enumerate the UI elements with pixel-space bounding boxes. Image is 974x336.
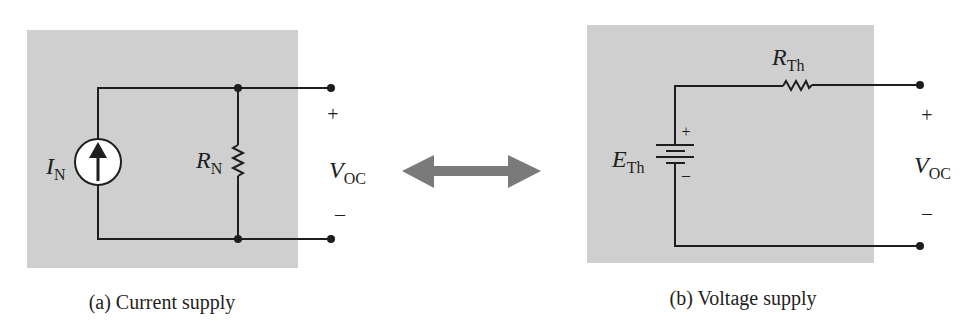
left-minus-sign: – <box>334 203 346 225</box>
battery-plus-sign: + <box>681 123 690 140</box>
double-arrow-icon <box>402 155 541 188</box>
left-voc-label: VOC <box>329 157 366 187</box>
right-caption: (b) Voltage supply <box>669 287 816 310</box>
left-caption: (a) Current supply <box>89 291 236 314</box>
left-shaded-panel <box>27 30 298 268</box>
terminal-bottom-left <box>327 235 335 243</box>
battery-minus-sign: – <box>681 166 691 183</box>
right-voc-label: VOC <box>914 152 951 182</box>
junction-node-bottom <box>234 235 242 243</box>
terminal-top-right <box>916 81 924 89</box>
voltage-supply-circuit: + – ETh RTh + VOC – (b) Voltage supply <box>587 25 951 310</box>
right-shaded-panel <box>587 25 874 263</box>
right-minus-sign: – <box>921 202 933 224</box>
junction-node-top <box>234 84 242 92</box>
current-source-icon <box>75 139 121 185</box>
current-supply-circuit: IN RN + VOC – (a) Current supply <box>27 30 366 314</box>
right-plus-sign: + <box>921 104 932 126</box>
terminal-top-left <box>327 84 335 92</box>
terminal-bottom-right <box>916 242 924 250</box>
norton-thevenin-diagram: IN RN + VOC – (a) Current supply + – <box>0 0 974 336</box>
left-plus-sign: + <box>327 103 338 125</box>
